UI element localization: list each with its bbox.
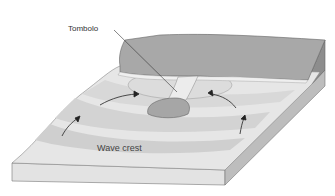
- wave-crest-label: Wave crest: [97, 143, 142, 153]
- tombolo-label: Tombolo: [68, 24, 98, 33]
- land-surface: [119, 34, 325, 80]
- tombolo-diagram: [0, 0, 335, 196]
